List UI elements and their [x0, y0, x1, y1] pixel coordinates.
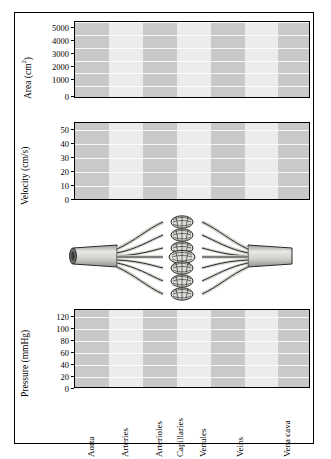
pressure-plot-area	[74, 309, 310, 388]
area-tick-1000: 1000	[37, 75, 69, 85]
pressure-tick-40: 40	[37, 360, 69, 370]
area-tick-3000: 3000	[37, 49, 69, 59]
pressure-tick-120: 120	[37, 312, 69, 322]
category-label-vena-cava: Vena cava	[282, 405, 292, 457]
velocity-tick-20: 20	[37, 167, 69, 177]
category-label-aorta: Aorta	[86, 405, 96, 457]
figure-panel: Area (cm2) 5000 4000 3000 2000 1000 0	[14, 12, 314, 444]
category-axis-labels: Aorta Arteries Arterioles Capillaries Ve…	[74, 401, 310, 457]
category-label-venules: Venules	[198, 405, 208, 457]
area-plot-area	[74, 21, 310, 98]
category-label-arteries: Arteries	[120, 405, 130, 457]
category-label-veins: Veins	[235, 405, 245, 457]
velocity-plot-area	[74, 122, 310, 200]
vascular-tree-diagram	[55, 211, 310, 301]
capillary-bed-group	[169, 216, 195, 300]
area-tick-4000: 4000	[37, 36, 69, 46]
velocity-tick-10: 10	[37, 181, 69, 191]
velocity-tick-50: 50	[37, 125, 69, 135]
pressure-tick-0: 0	[37, 384, 69, 394]
area-tick-5000: 5000	[37, 23, 69, 33]
velocity-tick-30: 30	[37, 153, 69, 163]
area-tick-0: 0	[37, 92, 69, 102]
area-tick-2000: 2000	[37, 62, 69, 72]
pressure-tick-20: 20	[37, 372, 69, 382]
velocity-chart-panel: Velocity (cm/s) 50 40 30 20 10 0	[15, 113, 315, 213]
area-axis-label: Area (cm2)	[20, 21, 33, 99]
pressure-tick-60: 60	[37, 348, 69, 358]
velocity-tick-0: 0	[37, 195, 69, 205]
area-chart-panel: Area (cm2) 5000 4000 3000 2000 1000 0	[15, 13, 315, 113]
pressure-axis-label: Pressure (mmHg)	[20, 305, 30, 397]
pressure-chart-panel: Pressure (mmHg) 120 100 80 60 40 20 0	[15, 301, 315, 401]
pressure-tick-80: 80	[37, 336, 69, 346]
velocity-axis-label: Velocity (cm/s)	[20, 119, 30, 205]
category-label-capillaries: Capillaries	[175, 405, 185, 457]
velocity-tick-40: 40	[37, 139, 69, 149]
category-label-arterioles: Arterioles	[154, 405, 164, 457]
pressure-tick-100: 100	[37, 324, 69, 334]
